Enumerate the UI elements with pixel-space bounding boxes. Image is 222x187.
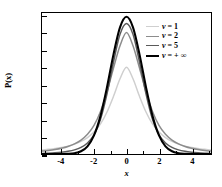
legend-line-swatch [146,55,159,57]
legend-label: v = 5 [162,42,178,50]
legend-line-swatch [146,36,159,37]
legend-item: v = + ∞ [146,51,206,61]
x-tick-label: 0 [114,157,140,166]
x-tick-label: 2 [146,157,172,166]
legend-line-swatch [146,26,159,27]
legend-label: v = + ∞ [162,52,186,60]
figure: 0.000.050.100.150.200.250.300.350.40 -4-… [0,0,222,187]
x-tick-label: -4 [48,157,74,166]
legend: v = 1v = 2v = 5v = + ∞ [146,22,206,60]
x-axis-title: x [41,169,212,178]
legend-item: v = 5 [146,41,206,51]
legend-label: v = 1 [162,23,178,31]
x-tick-label: -2 [81,157,107,166]
legend-label: v = 2 [162,32,178,40]
legend-item: v = 2 [146,32,206,42]
y-axis-title: P(x) [4,61,13,101]
legend-line-swatch [146,45,159,46]
legend-item: v = 1 [146,22,206,32]
x-tick-labels: -4-2024 [0,157,222,169]
x-tick-label: 4 [179,157,205,166]
